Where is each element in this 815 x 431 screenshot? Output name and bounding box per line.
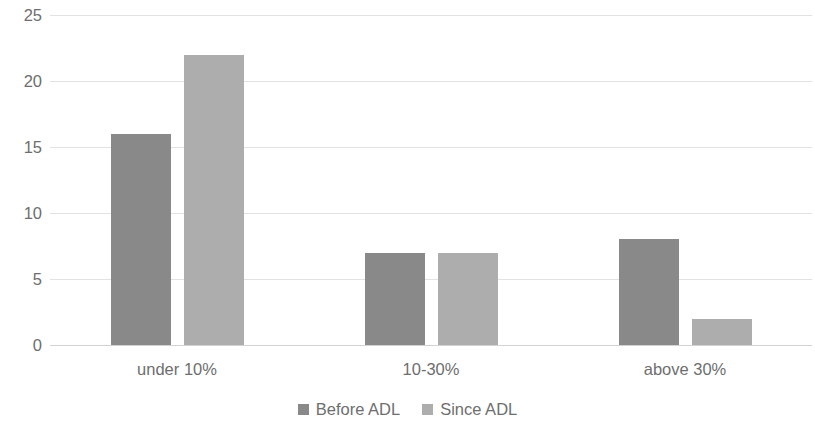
y-tick-label: 25 bbox=[0, 7, 42, 24]
legend-label: Since ADL bbox=[440, 401, 517, 418]
legend-swatch-icon bbox=[298, 404, 309, 415]
y-tick-label: 10 bbox=[0, 205, 42, 222]
bar bbox=[438, 253, 498, 345]
bar bbox=[692, 319, 752, 345]
y-tick-label: 15 bbox=[0, 139, 42, 156]
y-tick-label: 20 bbox=[0, 73, 42, 90]
legend-item[interactable]: Since ADL bbox=[422, 401, 517, 418]
bar bbox=[111, 134, 171, 345]
plot-area bbox=[50, 15, 812, 345]
x-tick-label: 10-30% bbox=[304, 352, 558, 386]
x-axis: under 10%10-30%above 30% bbox=[50, 352, 812, 386]
x-tick-label: above 30% bbox=[558, 352, 812, 386]
legend-label: Before ADL bbox=[316, 401, 400, 418]
gridline bbox=[50, 15, 812, 16]
bar bbox=[365, 253, 425, 345]
chart-legend: Before ADLSince ADL bbox=[0, 396, 815, 422]
bar-chart: 0510152025 under 10%10-30%above 30% Befo… bbox=[0, 0, 815, 431]
legend-swatch-icon bbox=[422, 404, 433, 415]
legend-item[interactable]: Before ADL bbox=[298, 401, 400, 418]
y-tick-label: 5 bbox=[0, 271, 42, 288]
bar bbox=[619, 239, 679, 345]
x-tick-label: under 10% bbox=[50, 352, 304, 386]
gridline bbox=[50, 345, 812, 346]
bar bbox=[184, 55, 244, 345]
y-axis: 0510152025 bbox=[0, 0, 42, 431]
gridline bbox=[50, 81, 812, 82]
y-tick-label: 0 bbox=[0, 337, 42, 354]
